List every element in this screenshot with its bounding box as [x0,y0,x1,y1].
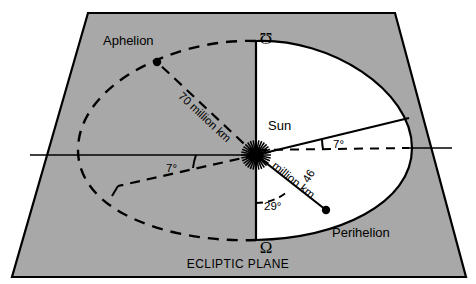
orbit-diagram: Ω Ω Aphelion Perihelion Sun 70 million k… [0,0,476,284]
perihelion-marker-dot [322,206,330,214]
inclination-right-arc [322,140,323,149]
figure-root: Ω Ω Aphelion Perihelion Sun 70 million k… [0,0,476,284]
perihelion-label: Perihelion [332,225,390,240]
aphelion-marker-dot [153,58,161,66]
perihelion-angle-label: 29° [264,200,281,212]
ecliptic-plane-caption: ECLIPTIC PLANE [187,257,289,271]
inclination-left-label: 7° [166,162,177,174]
sun-label: Sun [268,118,291,133]
aphelion-label: Aphelion [103,33,154,48]
inclination-right-label: 7° [333,138,344,150]
descending-node-icon: Ω [260,29,273,48]
descending-node-label: Ω [260,29,273,48]
ascending-node-label: Ω [260,238,273,257]
sun-icon [241,140,271,170]
